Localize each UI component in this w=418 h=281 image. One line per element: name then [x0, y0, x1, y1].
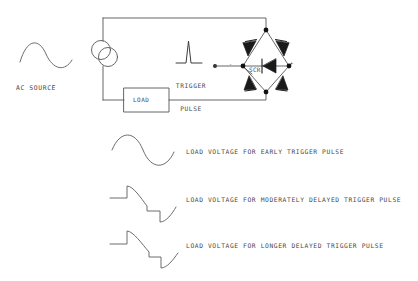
trigger-pulse-label-line2: PULSE: [170, 105, 212, 113]
waveform-longer-trace: [110, 231, 178, 268]
trigger-pulse-label: TRIGGER PULSE: [170, 66, 212, 128]
bridge-negative-polarity-mark: -: [229, 61, 232, 67]
trigger-pulse-symbol: [176, 41, 202, 63]
bridge-node-bottom: [264, 90, 269, 95]
waveform-moderate-label: LOAD VOLTAGE FOR MODERATELY DELAYED TRIG…: [186, 196, 401, 204]
ac-source-label: AC SOURCE: [16, 84, 56, 92]
bridge-node-left: [241, 64, 246, 69]
bridge-node-top: [264, 28, 269, 33]
waveform-moderate-trace: [110, 186, 176, 222]
waveform-early-label: LOAD VOLTAGE FOR EARLY TRIGGER PULSE: [186, 148, 344, 156]
load-label: LOAD: [133, 96, 149, 104]
waveform-longer-label: LOAD VOLTAGE FOR LONGER DELAYED TRIGGER …: [186, 242, 384, 250]
trigger-pulse-label-line1: TRIGGER: [170, 82, 212, 90]
top-supply-wire: [103, 18, 266, 30]
scr-device: [262, 59, 276, 73]
circuit-schematic-svg: [0, 0, 418, 281]
waveform-early-trace: [112, 135, 174, 165]
diagram-canvas: AC SOURCE LOAD TRIGGER PULSE SCR - + LOA…: [0, 0, 418, 281]
ac-source-sine-symbol: [20, 43, 72, 68]
bridge-positive-polarity-mark: +: [290, 60, 293, 66]
scr-label: SCR: [249, 66, 261, 74]
